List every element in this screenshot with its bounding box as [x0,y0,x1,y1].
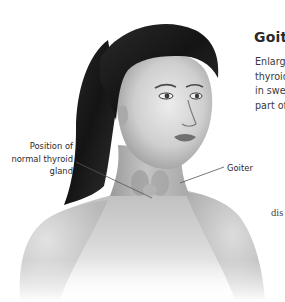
article-body: Enlarge thyroid in swel part of [255,55,285,113]
face [116,52,212,169]
torso [0,188,285,302]
goiter-label: Goiter [227,162,253,175]
body-line: Enlarge [255,55,285,70]
normal-thyroid-label: Position of normal thyroid gland [0,140,73,178]
ear [118,105,128,125]
label-line: gland [0,165,73,178]
label-line: normal thyroid [0,153,73,166]
article-title: Goit [254,29,285,45]
goiter-leader-line [180,167,224,183]
trailing-text-fragment: dis [271,207,283,218]
body-line: in swel [255,84,285,99]
label-line: Position of [0,140,73,153]
body-line: part of [255,99,285,114]
body-line: thyroid [255,70,285,85]
